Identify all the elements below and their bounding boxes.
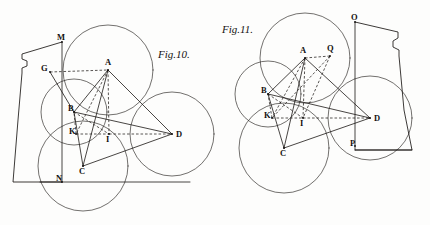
dashed-AI (108, 70, 109, 134)
point-label-K: K (264, 110, 271, 120)
point-label-Q: Q (327, 43, 334, 53)
dashed-AQ (305, 56, 330, 58)
line-BC (74, 112, 83, 166)
dashed-QK (272, 56, 330, 118)
point-label-C: C (79, 166, 85, 176)
line-AB (268, 58, 305, 94)
point-label-N: N (56, 173, 63, 183)
figure-fig10: MGABKIDCNFig.10. (13, 25, 214, 211)
point-label-I: I (300, 118, 304, 128)
point-marker-G (49, 71, 51, 73)
vessel-outline (355, 22, 412, 150)
dashed-AK (272, 58, 305, 118)
point-label-B: B (68, 103, 74, 113)
point-marker-B (267, 93, 269, 95)
point-marker-A (107, 69, 109, 71)
point-marker-K (271, 117, 273, 119)
point-label-D: D (176, 129, 182, 139)
point-label-G: G (41, 63, 48, 73)
point-label-B: B (261, 85, 267, 95)
point-label-A: A (300, 45, 307, 55)
dashed-GA (50, 70, 108, 72)
line-AD (305, 58, 370, 118)
point-label-A: A (105, 57, 112, 67)
point-label-P: P (350, 138, 355, 148)
point-label-K: K (69, 126, 76, 136)
figure-fig11: OQABKIDCPFig.11. (221, 12, 412, 193)
point-marker-D (171, 133, 173, 135)
vessel-outline (13, 42, 62, 182)
point-label-O: O (351, 12, 358, 22)
point-label-M: M (57, 32, 65, 42)
point-marker-D (369, 117, 371, 119)
caption-fig10: Fig.10. (157, 48, 190, 60)
point-label-I: I (106, 134, 110, 144)
point-marker-Q (329, 55, 331, 57)
line-BC (268, 94, 284, 148)
line-AD (108, 70, 172, 134)
line-AC (83, 70, 108, 166)
line-CD (284, 118, 370, 148)
engraving-plate: MGABKIDCNFig.10. OQABKIDCPFig.11. (0, 0, 430, 225)
point-marker-A (304, 57, 306, 59)
dashed-BI (74, 112, 109, 134)
dashed-BI (268, 94, 303, 118)
point-label-C: C (280, 148, 286, 158)
point-label-D: D (374, 113, 380, 123)
dashed-QI (303, 56, 330, 118)
line-BD (74, 112, 172, 134)
figures-canvas: MGABKIDCNFig.10. OQABKIDCPFig.11. (0, 0, 430, 225)
caption-fig11: Fig.11. (221, 23, 253, 35)
